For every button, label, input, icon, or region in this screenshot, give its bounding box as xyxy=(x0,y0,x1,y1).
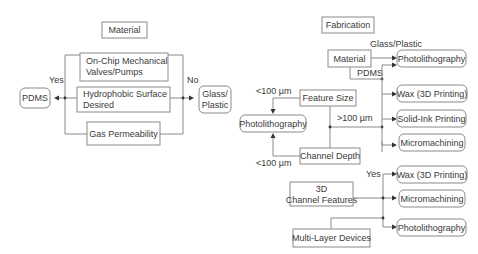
svg-text:Micromachining: Micromachining xyxy=(400,194,463,204)
material-title-box: Material xyxy=(102,22,147,38)
feature-size-node: Feature Size xyxy=(300,90,356,106)
glass-plastic-label: Glass/Plastic xyxy=(370,39,423,49)
svg-text:Desired: Desired xyxy=(83,100,114,110)
pdms-label: PDMS xyxy=(357,68,383,78)
fabrication-decision-diagram: Material On-Chip Mechanical Valves/Pumps… xyxy=(0,0,478,254)
svg-text:Glass/: Glass/ xyxy=(202,89,228,99)
svg-text:Hydrophobic Surface: Hydrophobic Surface xyxy=(83,89,167,99)
method-photolithography-top: Photolithography xyxy=(397,50,466,67)
yes-label: Yes xyxy=(49,75,64,85)
svg-text:Material: Material xyxy=(333,54,365,64)
svg-text:Photolithography: Photolithography xyxy=(398,223,466,233)
criterion-gas-permeability: Gas Permeability xyxy=(87,122,160,145)
multi-layer-devices-node: Multi-Layer Devices xyxy=(292,229,372,247)
channel-depth-node: Channel Depth xyxy=(300,148,360,164)
material-node: Material xyxy=(328,50,371,67)
svg-text:Photolithography: Photolithography xyxy=(239,119,307,129)
criterion-valves-pumps: On-Chip Mechanical Valves/Pumps xyxy=(80,53,168,81)
method-wax-3d-printing-top: Wax (3D Printing) xyxy=(397,85,468,102)
svg-text:Channel Features: Channel Features xyxy=(286,195,358,205)
arrow-head xyxy=(54,96,59,101)
svg-text:Wax (3D Printing): Wax (3D Printing) xyxy=(397,170,468,180)
method-micromachining-bottom: Micromachining xyxy=(399,190,465,207)
fabrication-title-box: Fabrication xyxy=(322,17,374,33)
svg-text:Feature Size: Feature Size xyxy=(302,93,353,103)
svg-text:Material: Material xyxy=(108,25,140,35)
svg-text:Valves/Pumps: Valves/Pumps xyxy=(86,67,143,77)
svg-text:Fabrication: Fabrication xyxy=(326,20,371,30)
criterion-hydrophobic-surface: Hydrophobic Surface Desired xyxy=(77,87,170,112)
arrow-head xyxy=(189,96,194,101)
method-wax-3d-printing-bottom: Wax (3D Printing) xyxy=(397,166,468,183)
svg-text:Plastic: Plastic xyxy=(202,100,229,110)
no-label: No xyxy=(187,75,199,85)
lt100-bottom-label: <100 µm xyxy=(256,158,291,168)
svg-text:PDMS: PDMS xyxy=(22,93,48,103)
method-micromachining-top: Micromachining xyxy=(399,134,465,151)
glass-plastic-result: Glass/ Plastic xyxy=(199,86,231,113)
svg-text:Multi-Layer Devices: Multi-Layer Devices xyxy=(292,233,372,243)
svg-text:3D: 3D xyxy=(316,184,328,194)
gt100-label: >100 µm xyxy=(337,113,372,123)
svg-text:Gas Permeability: Gas Permeability xyxy=(89,129,158,139)
3d-channel-features-node: 3D Channel Features xyxy=(286,182,358,206)
method-photolithography-bottom: Photolithography xyxy=(397,219,466,236)
yes-label-bottom: Yes xyxy=(366,169,381,179)
svg-text:Channel Depth: Channel Depth xyxy=(300,151,360,161)
svg-text:Micromachining: Micromachining xyxy=(400,138,463,148)
method-solid-ink-printing: Solid-Ink Printing xyxy=(397,110,466,127)
photolithography-left-node: Photolithography xyxy=(239,115,307,132)
svg-text:Solid-Ink Printing: Solid-Ink Printing xyxy=(397,114,465,124)
lt100-top-label: <100 µm xyxy=(256,86,291,96)
svg-text:On-Chip Mechanical: On-Chip Mechanical xyxy=(86,56,168,66)
svg-text:Photolithography: Photolithography xyxy=(398,54,466,64)
svg-text:Wax (3D Printing): Wax (3D Printing) xyxy=(397,89,468,99)
pdms-result: PDMS xyxy=(20,88,50,108)
